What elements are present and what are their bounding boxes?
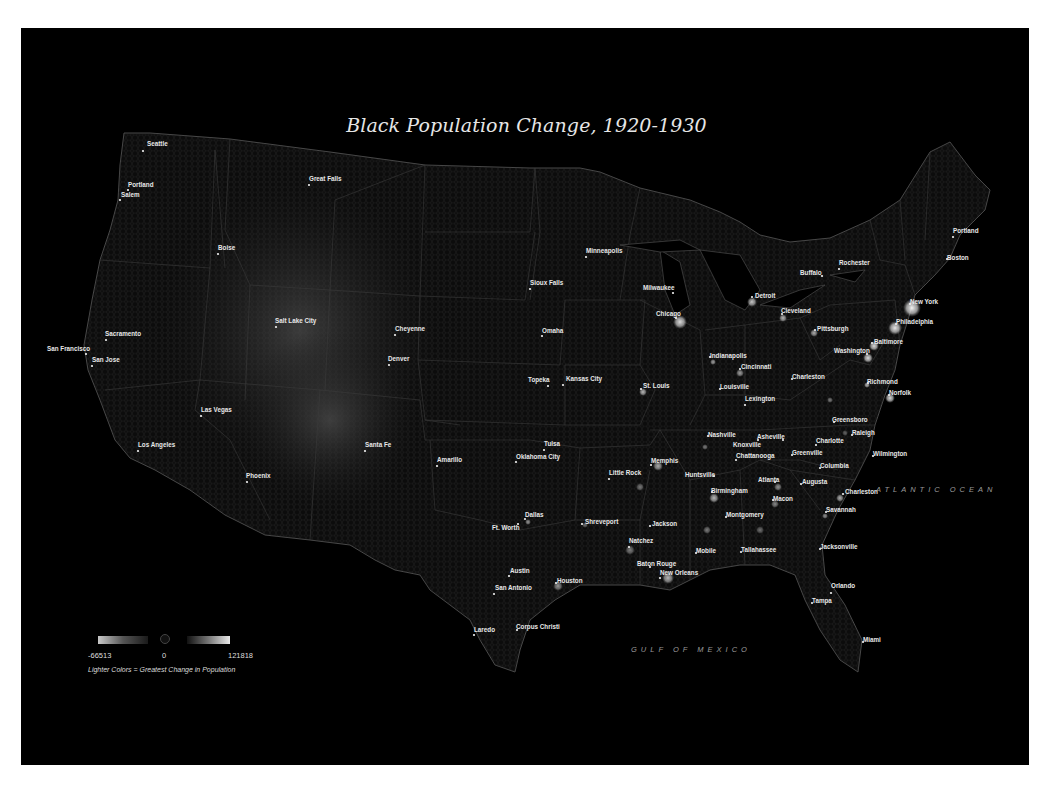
city-label: Charlotte: [816, 437, 844, 444]
city-label: Cincinnati: [741, 363, 772, 370]
city-marker: Indianapolis: [709, 352, 747, 360]
map-title: Black Population Change, 1920-1930: [0, 114, 1053, 136]
city-label: Corpus Christi: [516, 623, 560, 631]
city-marker: Huntsville: [685, 471, 716, 478]
city-label: Baltimore: [874, 338, 904, 345]
city-marker: Savannah: [825, 506, 856, 513]
city-marker: Augusta: [800, 478, 828, 486]
city-dot-icon: [200, 415, 202, 417]
city-marker: Atlanta: [758, 476, 780, 483]
city-label: Birmingham: [711, 487, 748, 495]
legend-min-value: -66513: [88, 651, 111, 660]
ocean-label: GULF OF MEXICO: [631, 645, 751, 654]
city-marker: Wilmington: [872, 450, 907, 458]
city-label: Sacramento: [105, 330, 141, 337]
city-dot-icon: [830, 592, 832, 594]
city-dot-icon: [735, 459, 737, 461]
city-dot-icon: [524, 518, 526, 520]
city-dot-icon: [105, 339, 107, 341]
city-label: Memphis: [651, 457, 679, 465]
city-label: Miami: [863, 636, 881, 643]
hotspot: [625, 545, 635, 555]
city-label: Houston: [557, 577, 583, 584]
city-dot-icon: [815, 444, 817, 446]
city-label: Austin: [510, 567, 530, 574]
city-label: Buffalo: [800, 269, 822, 276]
city-dot-icon: [508, 575, 510, 577]
city-marker: Baton Rouge: [637, 560, 677, 568]
city-label: Tulsa: [544, 440, 560, 447]
city-label: Jacksonville: [820, 543, 858, 550]
city-marker: Jacksonville: [819, 543, 858, 550]
hotspot: [673, 315, 687, 329]
city-label: Kansas City: [566, 375, 603, 383]
city-dot-icon: [308, 184, 310, 186]
city-label: St. Louis: [643, 382, 670, 389]
city-label: Norfolk: [889, 389, 912, 396]
city-dot-icon: [394, 334, 396, 336]
hotspot: [827, 397, 833, 403]
hotspot: [836, 494, 844, 502]
hotspot: [736, 369, 744, 377]
city-label: Nashville: [708, 431, 736, 438]
city-label: Asheville: [757, 433, 785, 440]
city-marker: New York: [909, 298, 939, 305]
city-dot-icon: [675, 317, 677, 319]
city-dot-icon: [85, 353, 87, 355]
city-label: San Antonio: [495, 584, 532, 591]
city-label: Pittsburgh: [817, 325, 849, 333]
legend-negative-bar: [98, 636, 148, 644]
city-label: Orlando: [831, 582, 855, 589]
city-label: New York: [910, 298, 939, 305]
city-dot-icon: [562, 384, 564, 386]
city-label: Milwaukee: [643, 284, 675, 291]
city-marker: Richmond: [867, 378, 898, 385]
city-label: Portland: [953, 227, 979, 234]
city-label: Chicago: [656, 310, 681, 318]
legend-zero-value: 0: [162, 651, 166, 660]
city-marker: Greenville: [791, 449, 823, 456]
city-dot-icon: [649, 525, 651, 527]
city-label: Columbia: [820, 462, 849, 469]
city-label: Huntsville: [685, 471, 716, 478]
city-dot-icon: [952, 236, 954, 238]
city-label: Oklahoma City: [516, 453, 561, 461]
city-dot-icon: [217, 253, 219, 255]
city-label: Indianapolis: [710, 352, 747, 360]
city-label: Santa Fe: [365, 441, 392, 448]
city-label: Omaha: [542, 327, 564, 334]
city-label: Cleveland: [781, 307, 811, 314]
city-dot-icon: [547, 385, 549, 387]
city-marker: Miami: [862, 636, 881, 643]
city-label: Raleigh: [852, 429, 875, 437]
city-label: Greensboro: [832, 416, 868, 423]
city-label: San Jose: [92, 356, 120, 363]
city-label: Detroit: [755, 292, 776, 299]
ocean-label: ATLANTIC OCEAN: [875, 485, 996, 494]
city-label: Savannah: [826, 506, 856, 513]
city-label: Charleston: [792, 373, 825, 380]
city-marker: Ft. Worth: [492, 523, 520, 531]
city-marker: Asheville: [757, 433, 785, 441]
city-marker: Cincinnati: [739, 363, 772, 370]
city-dot-icon: [838, 268, 840, 270]
city-marker: St. Louis: [640, 382, 670, 390]
city-dot-icon: [246, 481, 248, 483]
city-dot-icon: [672, 292, 674, 294]
legend-max-value: 121818: [228, 651, 253, 660]
city-dot-icon: [388, 364, 390, 366]
legend: -66513 0 121818 Lighter Colors = Greates…: [80, 634, 280, 684]
city-label: Amarillo: [437, 456, 462, 463]
city-label: Macon: [773, 495, 793, 502]
hotspot: [863, 353, 873, 363]
city-marker: Corpus Christi: [516, 623, 560, 631]
city-dot-icon: [275, 326, 277, 328]
hotspot: [779, 314, 787, 322]
city-dot-icon: [650, 464, 652, 466]
city-marker: Macon: [772, 495, 793, 502]
city-marker: Jackson: [649, 520, 677, 527]
city-dot-icon: [640, 388, 642, 390]
hotspot: [710, 359, 716, 365]
city-label: Rochester: [839, 259, 870, 266]
city-label: Baton Rouge: [637, 560, 677, 568]
